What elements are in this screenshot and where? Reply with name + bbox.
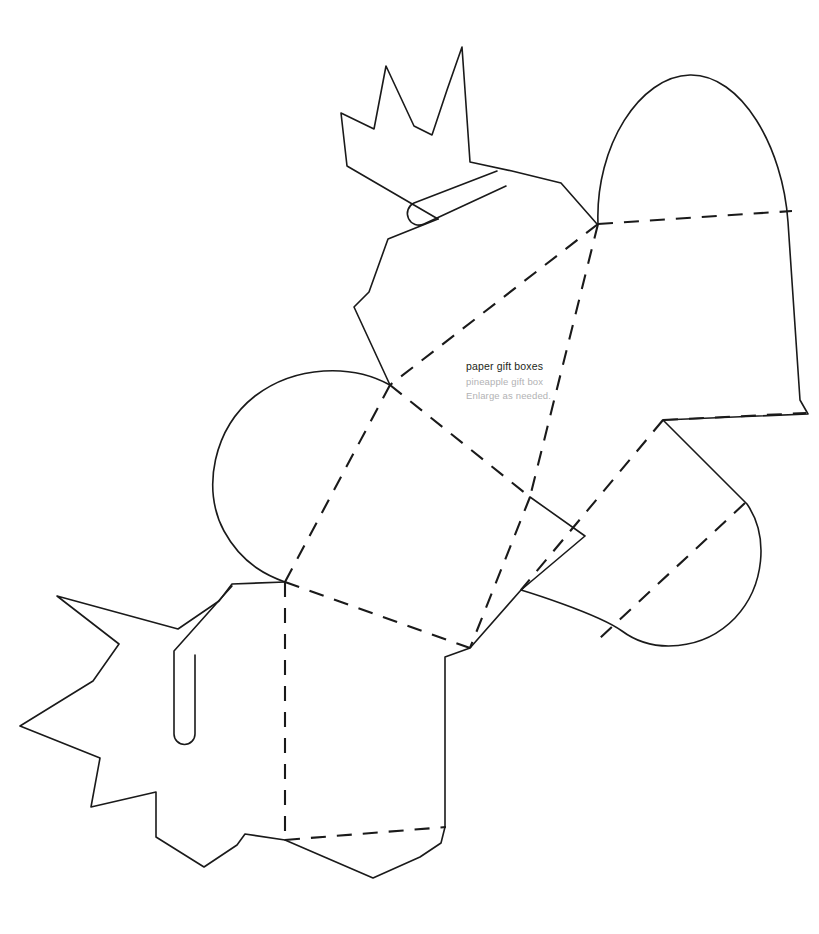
- pineapple-crown-bottom-outline: [20, 582, 285, 867]
- fold-top-right-horizontal: [598, 211, 792, 224]
- fold-dome-lower-right-tab: [600, 503, 745, 638]
- fold-center-to-bottom: [470, 497, 530, 648]
- crown-top-slot-icon: [407, 171, 506, 225]
- page-title: paper gift boxes: [466, 361, 666, 372]
- dome-tab-lower-right-outline: [521, 420, 761, 646]
- fold-left-diagonal: [285, 385, 390, 582]
- fold-line-group: [285, 211, 806, 840]
- template-label-block: paper gift boxes pineapple gift box Enla…: [466, 361, 666, 401]
- bottom-panel-lower-edge: [285, 827, 445, 878]
- enlarge-note: Enlarge as needed.: [466, 391, 666, 401]
- template-subtitle: pineapple gift box: [466, 377, 666, 387]
- pineapple-crown-top-outline: [341, 47, 597, 224]
- crown-top-left-tail: [354, 219, 438, 385]
- fold-center-diagonal: [390, 385, 530, 497]
- crown-bottom-slot-icon: [174, 586, 232, 745]
- fold-bottom-horizontal: [285, 827, 446, 840]
- gift-box-template-diagram: [0, 0, 819, 934]
- fold-left-to-bottom: [285, 582, 470, 648]
- center-right-panel-edge: [445, 497, 585, 827]
